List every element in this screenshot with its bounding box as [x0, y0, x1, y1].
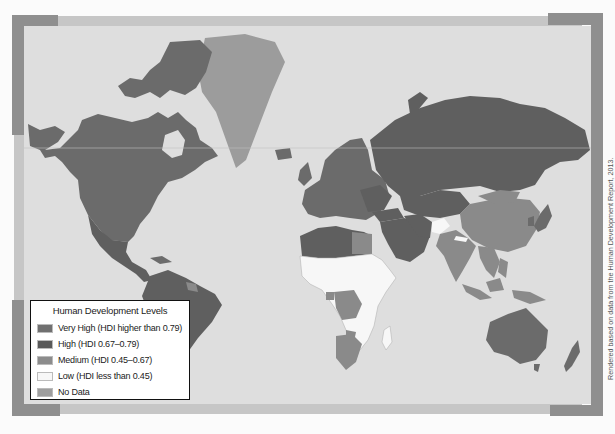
swatch-medium — [37, 356, 53, 365]
legend-label: Low (HDI less than 0.45) — [58, 371, 152, 381]
region-canada-arctic — [118, 40, 212, 98]
legend-label: Medium (HDI 0.45–0.67) — [58, 355, 152, 365]
frame-corner — [591, 300, 603, 416]
region-australia — [486, 308, 548, 364]
legend-title: Human Development Levels — [37, 305, 183, 316]
swatch-no-data — [37, 388, 53, 397]
swatch-low — [37, 372, 53, 381]
legend-item-very-high: Very High (HDI higher than 0.79) — [37, 320, 183, 336]
region-indonesia-2 — [486, 278, 504, 292]
source-credit: Rendered based on data from the Human De… — [606, 157, 615, 380]
legend-label: High (HDI 0.67–0.79) — [58, 339, 139, 349]
region-new-zealand — [564, 340, 580, 372]
region-egypt — [352, 232, 372, 254]
legend-item-low: Low (HDI less than 0.45) — [37, 368, 183, 384]
legend-label: Very High (HDI higher than 0.79) — [58, 323, 182, 333]
legend-label: No Data — [58, 387, 90, 397]
region-north-america — [28, 112, 218, 242]
legend-item-no-data: No Data — [37, 384, 183, 400]
frame-corner — [591, 13, 603, 313]
legend-item-high: High (HDI 0.67–0.79) — [37, 336, 183, 352]
region-tasmania — [534, 364, 540, 372]
frame-corner — [12, 300, 24, 416]
swatch-very-high — [37, 324, 53, 333]
region-new-guinea — [512, 290, 546, 304]
region-gabon — [326, 292, 334, 300]
region-iceland — [275, 148, 292, 160]
region-russia — [370, 96, 590, 196]
legend-item-medium: Medium (HDI 0.45–0.67) — [37, 352, 183, 368]
region-caribbean — [150, 256, 172, 264]
region-afghanistan — [432, 218, 450, 234]
legend: Human Development Levels Very High (HDI … — [30, 300, 190, 400]
swatch-high — [37, 340, 53, 349]
region-indonesia-1 — [462, 284, 492, 300]
region-se-asia — [478, 246, 500, 278]
region-madagascar — [382, 326, 392, 350]
region-uk — [298, 162, 312, 186]
frame-corner — [12, 15, 24, 135]
